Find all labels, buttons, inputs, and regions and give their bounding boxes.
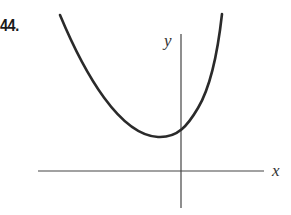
- y-axis-label: y: [162, 31, 172, 50]
- figure: 44. y x: [0, 0, 291, 215]
- graph: y x: [0, 0, 291, 215]
- x-axis-label: x: [271, 161, 280, 180]
- parabola-curve: [60, 14, 222, 137]
